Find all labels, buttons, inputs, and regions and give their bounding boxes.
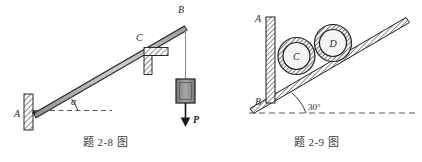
figure-2-8-caption: 题 2-8 图 [0,133,211,149]
wall-support-a [24,94,33,130]
label-point-b: B [178,4,184,15]
vertical-wall-ab [266,17,275,103]
hanging-block [176,79,195,103]
label-cylinder-d: D [329,38,338,49]
figure-sheet: A B C α P 题 2-8 图 [0,0,422,162]
figure-2-9-caption: 题 2-9 图 [211,133,422,149]
label-wall-top-a: A [254,13,262,24]
label-point-c: C [136,32,143,43]
label-incline-angle: 30° [308,102,321,112]
label-load-p: P [193,114,200,125]
angle-30-arc [292,93,307,114]
figure-2-8-drawing: A B C α P [0,0,211,133]
beam-ab [34,26,188,118]
figure-2-9-panel: A B C D 30° 题 2-9 图 [211,0,422,162]
figure-2-8-panel: A B C α P 题 2-8 图 [0,0,211,162]
pin-joint-a [32,111,36,115]
label-cylinder-c: C [293,51,300,62]
figure-2-9-drawing: A B C D 30° [211,0,422,133]
label-angle-alpha: α [71,96,77,107]
bracket-support-c [144,48,168,75]
label-wall-bottom-b: B [255,96,261,107]
label-point-a: A [13,108,21,119]
